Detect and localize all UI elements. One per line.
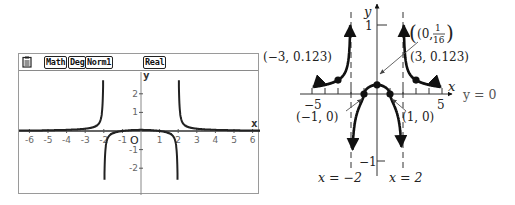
point-label-neg3: (−3, 0.123) — [263, 50, 332, 64]
calculator-function-curve — [19, 80, 260, 180]
svg-text:): ) — [446, 21, 454, 45]
svg-text:-2: -2 — [129, 163, 138, 173]
calculator-x-axis-label: x — [251, 117, 258, 130]
svg-text:1: 1 — [157, 135, 163, 145]
svg-text:-1: -1 — [118, 135, 127, 145]
svg-text:16: 16 — [433, 35, 445, 45]
tick-label-1: 1 — [365, 19, 373, 33]
point-label-neg1-zero: (−1, 0) — [296, 110, 338, 124]
calculator-screen: Math Deg Norm1 Real -6-5-4-3-2-112345621… — [18, 53, 259, 194]
textbook-leader-arrows — [346, 42, 418, 111]
tick-label-5: 5 — [437, 98, 445, 112]
svg-text:-3: -3 — [81, 135, 90, 145]
textbook-graph: y x y = 0 −5 5 1 −1 x = −2 x = 2 (−3, 0.… — [262, 0, 515, 205]
svg-text:(0,: (0, — [417, 27, 433, 41]
textbook-y-axis-label: y — [363, 4, 372, 19]
svg-text:-5: -5 — [44, 135, 53, 145]
svg-text:2: 2 — [132, 89, 138, 99]
svg-text:-4: -4 — [62, 135, 71, 145]
svg-text:5: 5 — [231, 135, 237, 145]
left-asymptote-label: x = −2 — [318, 170, 362, 185]
horizontal-asymptote-label: y = 0 — [462, 87, 496, 102]
textbook-x-axis-label: x — [448, 79, 456, 94]
point-label-3: (3, 0.123) — [410, 50, 469, 64]
svg-text:6: 6 — [250, 135, 256, 145]
svg-text:-6: -6 — [25, 135, 34, 145]
svg-text:4: 4 — [213, 135, 219, 145]
calculator-y-axis-label: y — [143, 69, 150, 82]
point-label-y-intercept: ( (0, 1 16 ) — [409, 21, 454, 45]
tick-label-neg1: −1 — [359, 155, 377, 169]
svg-text:1: 1 — [435, 23, 441, 33]
point-label-1-zero: (1, 0) — [402, 110, 434, 124]
svg-text:(: ( — [409, 21, 417, 45]
svg-text:3: 3 — [194, 135, 200, 145]
calculator-origin-label: O — [130, 134, 139, 147]
right-asymptote-label: x = 2 — [389, 170, 422, 185]
calculator-graph: -6-5-4-3-2-112345621-1-2 x y O — [19, 54, 260, 195]
svg-text:1: 1 — [132, 107, 138, 117]
calculator-axes — [19, 72, 260, 195]
